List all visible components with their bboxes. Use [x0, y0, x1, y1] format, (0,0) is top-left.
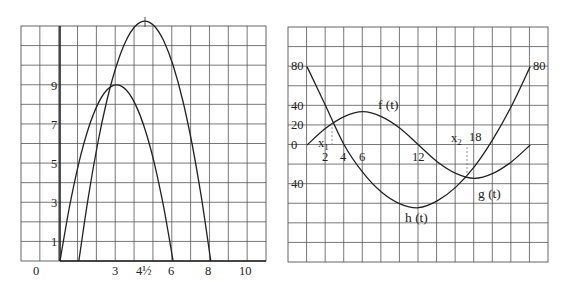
x-label-8: 8 [205, 264, 211, 278]
x-label-4: 4 [340, 150, 347, 164]
x-label-4-5: 4½ [136, 264, 152, 278]
x-label-6: 6 [359, 150, 365, 164]
y-label-7: 7 [51, 118, 57, 132]
x-label-3: 3 [112, 264, 118, 278]
y-label-neg40: 40 [291, 177, 304, 191]
left-chart: 9 7 5 3 1 0 3 4½ 6 8 10 [21, 17, 266, 278]
label-x2: x2 [451, 131, 462, 147]
y-label-20: 20 [291, 118, 304, 132]
y-label-9: 9 [51, 79, 57, 93]
right-end-label-80: 80 [533, 59, 546, 73]
y-label-40: 40 [291, 99, 304, 113]
parabola-1 [60, 85, 173, 261]
curve-f-of-t [307, 112, 530, 179]
x-label-2: 2 [322, 150, 328, 164]
right-chart: 80 40 20 0 40 2 4 6 12 18 80 f (t) g (t)… [288, 27, 548, 262]
label-h-of-t: h (t) [405, 210, 428, 225]
x-label-10: 10 [239, 264, 252, 278]
y-label-1: 1 [51, 235, 57, 249]
y-label-5: 5 [51, 157, 57, 171]
x-label-6: 6 [168, 264, 174, 278]
y-label-3: 3 [51, 196, 57, 210]
label-x1: x1 [318, 136, 329, 152]
label-f-of-t: f (t) [378, 97, 399, 112]
y-label-0: 0 [291, 138, 297, 152]
label-g-of-t: g (t) [478, 186, 501, 201]
x-label-0: 0 [33, 264, 39, 278]
x-label-12: 12 [412, 150, 425, 164]
figure: 9 7 5 3 1 0 3 4½ 6 8 10 80 40 20 0 40 2 … [0, 0, 565, 283]
left-grid [21, 26, 266, 261]
y-label-80: 80 [291, 59, 304, 73]
x-label-18: 18 [469, 130, 482, 144]
